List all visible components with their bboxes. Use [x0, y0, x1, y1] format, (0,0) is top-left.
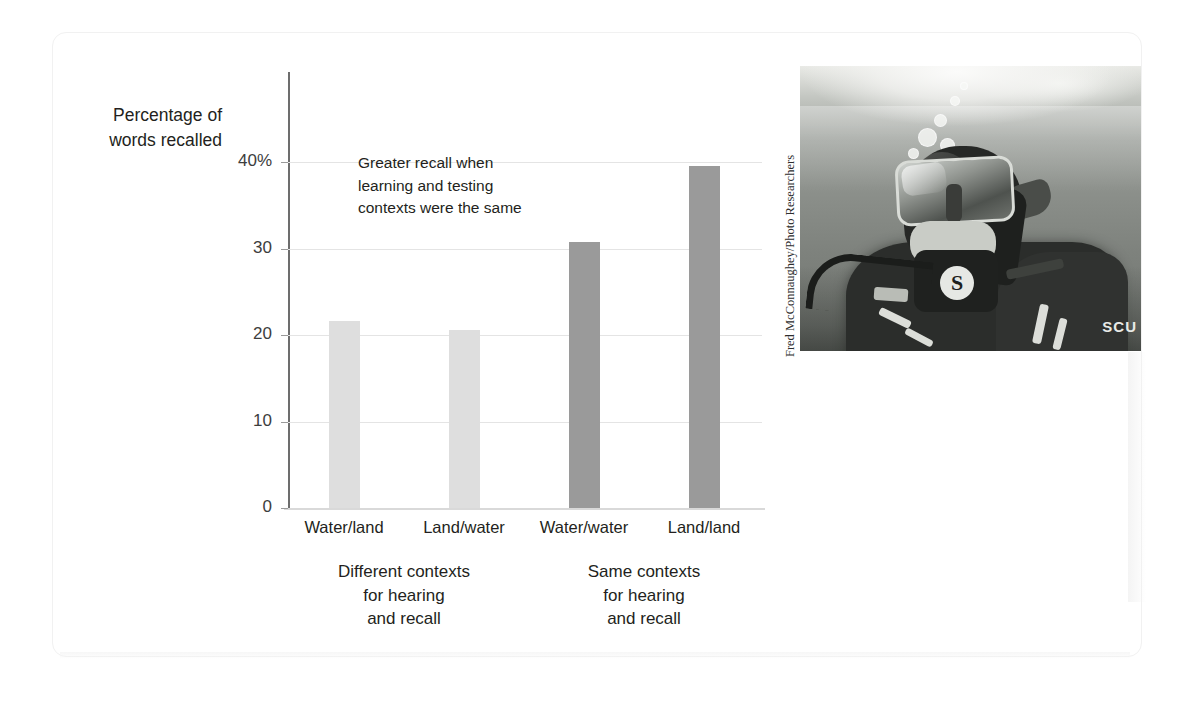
- photo-credit: Fred McConnaughey/Photo Researchers: [783, 155, 798, 357]
- group-label: Different contexts for hearing and recal…: [284, 560, 524, 631]
- x-tick-label: Land/water: [394, 518, 534, 537]
- bubble-icon: [934, 114, 947, 127]
- x-tick-label: Land/land: [634, 518, 774, 537]
- x-axis-line: [284, 508, 765, 510]
- bar-land-water: [449, 330, 480, 508]
- bar-water-land: [329, 321, 360, 508]
- y-tick-mark: [281, 508, 288, 509]
- x-tick-label: Water/water: [514, 518, 654, 537]
- y-tick-label: 10: [212, 411, 272, 431]
- scuba-brand-text: SCU: [1102, 318, 1137, 335]
- regulator-logo: S: [940, 266, 974, 300]
- y-tick-mark: [281, 422, 288, 423]
- bar-water-water: [569, 242, 600, 508]
- y-tick-label: 40%: [212, 151, 272, 171]
- bar-land-land: [689, 166, 720, 508]
- bubble-icon: [908, 148, 919, 159]
- group-label: Same contexts for hearing and recall: [524, 560, 764, 631]
- y-tick-mark: [281, 162, 288, 163]
- y-tick-mark: [281, 249, 288, 250]
- plot-area: [288, 72, 762, 508]
- mask-nose-bridge: [946, 184, 962, 222]
- y-tick-label: 30: [212, 238, 272, 258]
- y-tick-label: 20: [212, 324, 272, 344]
- bubble-icon: [960, 82, 968, 90]
- y-tick-label: 0: [212, 497, 272, 517]
- x-tick-label: Water/land: [274, 518, 414, 537]
- chart-annotation: Greater recall when learning and testing…: [358, 152, 588, 220]
- scuba-diver-photo: S SCU: [800, 66, 1141, 351]
- bubble-icon: [918, 128, 937, 147]
- y-tick-mark: [281, 335, 288, 336]
- hose-clamp: [874, 287, 909, 302]
- bubble-icon: [950, 96, 960, 106]
- y-axis-title: Percentage of words recalled: [26, 103, 222, 153]
